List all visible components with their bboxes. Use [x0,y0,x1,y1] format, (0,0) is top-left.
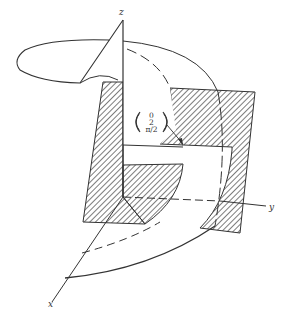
vector-row-3: π/2 [145,125,157,134]
x-axis-label: x [48,299,53,309]
cylindrical-coordinates-diagram: z x y 0 2 π/2 [0,0,285,315]
y-axis-label: y [268,202,275,212]
arcs [65,41,222,278]
z-axis-label: z [118,7,124,17]
top-flap [17,20,123,83]
